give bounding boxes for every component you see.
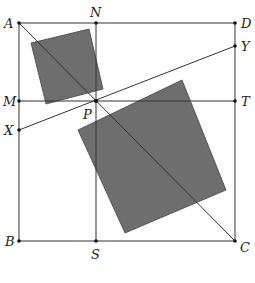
geometry-diagram: A N D Y M T P X B S C — [0, 0, 255, 283]
point-y — [233, 44, 237, 48]
point-b — [17, 239, 21, 243]
small-shaded-square — [31, 29, 103, 104]
point-m — [17, 99, 21, 103]
label-t: T — [241, 94, 251, 109]
label-a: A — [3, 16, 13, 31]
point-d — [233, 21, 237, 25]
label-x: X — [3, 123, 14, 138]
point-s — [94, 239, 98, 243]
label-c: C — [240, 240, 250, 255]
point-x — [17, 128, 21, 132]
point-p — [94, 99, 98, 103]
label-y: Y — [241, 39, 251, 54]
point-n — [94, 21, 98, 25]
label-n: N — [89, 5, 102, 20]
label-p: P — [82, 107, 92, 122]
point-a — [17, 21, 21, 25]
label-b: B — [4, 234, 15, 249]
label-s: S — [91, 247, 100, 262]
label-d: D — [240, 16, 252, 31]
point-t — [233, 99, 237, 103]
point-c — [233, 239, 237, 243]
label-m: M — [2, 94, 17, 109]
